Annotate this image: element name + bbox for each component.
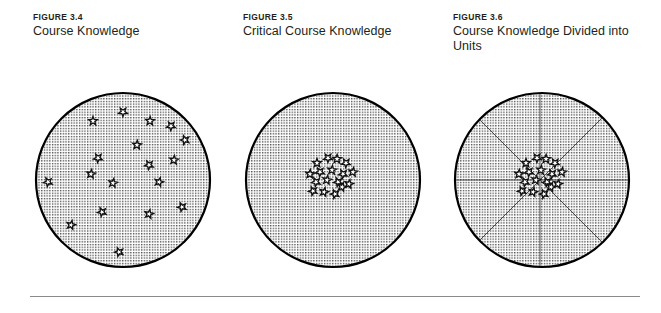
circle-diagram-svg <box>243 90 423 270</box>
circle-diagram-svg <box>452 90 632 270</box>
footer-divider <box>30 296 640 297</box>
figure-title: Critical Course Knowledge <box>243 24 443 39</box>
figure-title: Course Knowledge Divided into Units <box>453 24 653 54</box>
figure-page: FIGURE 3.4 Course Knowledge FIGURE 3.5 C… <box>0 0 661 313</box>
figure-label: FIGURE 3.4 <box>33 12 233 23</box>
figure-caption-3-6: FIGURE 3.6 Course Knowledge Divided into… <box>453 12 653 54</box>
figure-caption-3-5: FIGURE 3.5 Critical Course Knowledge <box>243 12 443 39</box>
diagram-course-knowledge <box>33 90 213 270</box>
figure-title: Course Knowledge <box>33 24 233 39</box>
circle-diagram-svg <box>33 90 213 270</box>
diagram-course-knowledge-divided <box>452 90 632 270</box>
figure-label: FIGURE 3.5 <box>243 12 443 23</box>
figure-caption-3-4: FIGURE 3.4 Course Knowledge <box>33 12 233 39</box>
figure-label: FIGURE 3.6 <box>453 12 653 23</box>
diagram-critical-course-knowledge <box>243 90 423 270</box>
